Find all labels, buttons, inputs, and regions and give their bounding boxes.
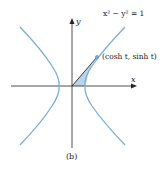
x-axis-arrow-icon [131, 84, 137, 89]
point-marker [95, 55, 98, 58]
hyperbola-diagram: y x x² − y² = 1 (cosh t, sinh t) (b) [0, 0, 164, 175]
equation-label: x² − y² = 1 [103, 9, 144, 18]
x-axis-label: x [131, 75, 136, 84]
figure-caption: (b) [66, 152, 77, 161]
point-label: (cosh t, sinh t) [102, 52, 157, 61]
y-axis-label: y [75, 17, 81, 26]
y-axis-arrow-icon [70, 18, 75, 24]
